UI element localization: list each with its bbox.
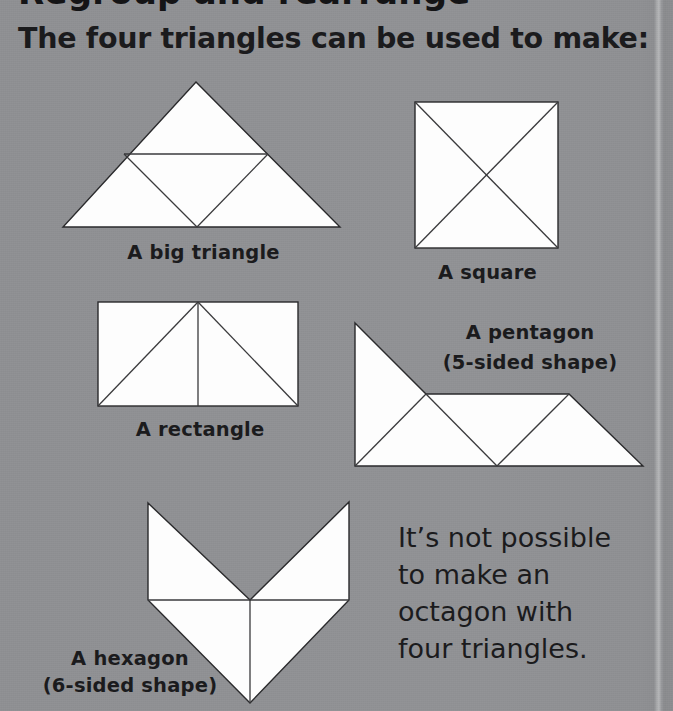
octagon-note-line-4: four triangles.: [398, 630, 653, 667]
figure-big-triangle: [55, 75, 350, 240]
label-big-triangle-text: A big triangle: [127, 241, 280, 264]
octagon-note-line-1: It’s not possible: [398, 519, 653, 556]
label-big-triangle: A big triangle: [71, 241, 336, 264]
label-rectangle: A rectangle: [90, 418, 310, 441]
page-heading: The four triangles can be used to make:: [18, 22, 638, 55]
octagon-note-line-2: to make an: [398, 556, 653, 593]
label-hexagon-text: A hexagon: [10, 645, 250, 672]
label-hexagon-subtext: (6-sided shape): [10, 672, 250, 699]
octagon-note: It’s not possible to make an octagon wit…: [398, 519, 653, 667]
figure-square: [405, 95, 570, 260]
worksheet-page: Regroup and rearrange The four triangles…: [0, 0, 673, 711]
label-hexagon: A hexagon (6-sided shape): [10, 645, 250, 699]
label-square-text: A square: [438, 261, 537, 284]
label-pentagon: A pentagon (5-sided shape): [410, 318, 650, 378]
label-pentagon-subtext: (5-sided shape): [410, 348, 650, 378]
figure-rectangle: [90, 295, 310, 420]
octagon-note-line-3: octagon with: [398, 593, 653, 630]
label-rectangle-text: A rectangle: [136, 418, 265, 441]
label-pentagon-text: A pentagon: [410, 318, 650, 348]
cropped-title-above: Regroup and rearrange: [18, 0, 638, 12]
label-square: A square: [405, 261, 570, 284]
